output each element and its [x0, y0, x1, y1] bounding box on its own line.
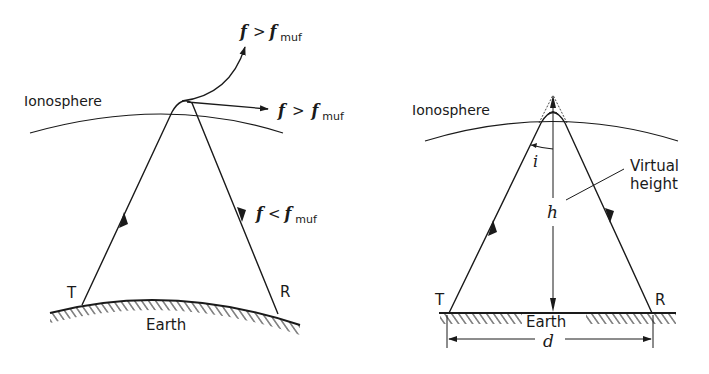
horizontal-ray [187, 102, 268, 109]
ionosphere-arc [30, 114, 283, 133]
angle-label: i [533, 152, 538, 171]
ionosphere-label: Ionosphere [412, 102, 490, 118]
height-label: h [547, 202, 558, 222]
receiver-label: R [655, 291, 665, 309]
distance-label: d [543, 331, 554, 351]
transmitter-label: T [66, 284, 77, 302]
virtual-height-leader [566, 169, 624, 200]
ionospheric-propagation-figure: Ionosphere Earth f > f muf f > f muf f [0, 0, 709, 374]
right-diagram: Ionosphere Earth h i Virtual height T R [412, 95, 679, 351]
escape-ray-label: f > f muf [239, 22, 303, 44]
down-arrowhead-icon [237, 207, 246, 222]
horizontal-ray-label: f > f muf [277, 101, 345, 123]
transmitter-label: T [434, 291, 445, 309]
left-diagram: Ionosphere Earth f > f muf f > f muf f [24, 22, 345, 335]
virtual-height-label-line1: Virtual [630, 157, 679, 175]
up-arrowhead-icon [119, 212, 128, 228]
virtual-height-label-line2: height [630, 175, 678, 193]
earth-label: Earth [146, 316, 186, 334]
down-arrowhead-icon [605, 208, 614, 223]
reflected-ray-path [82, 101, 278, 314]
escaping-ray [182, 47, 245, 101]
height-arrow-top-icon [550, 95, 556, 108]
receiver-label: R [280, 283, 290, 301]
ionosphere-label: Ionosphere [24, 93, 102, 109]
ionosphere-arc [425, 122, 678, 142]
reflected-ray-label: f < f muf [255, 204, 318, 226]
earth-label: Earth [526, 313, 566, 331]
up-arrowhead-icon [488, 220, 497, 236]
height-arrow-bottom-icon [550, 298, 556, 312]
